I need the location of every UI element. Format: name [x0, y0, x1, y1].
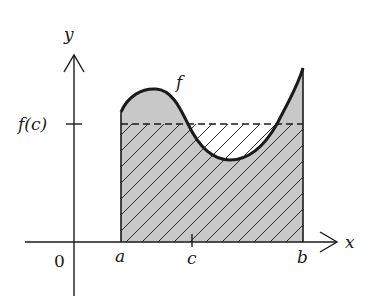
rectangle-f-c — [121, 124, 303, 242]
function-label: f — [174, 72, 185, 92]
origin-label: 0 — [54, 251, 65, 271]
diagram-canvas: y x 0 a c b f(c) f — [0, 0, 374, 305]
f-c-label: f(c) — [16, 114, 47, 134]
c-label: c — [187, 248, 197, 268]
b-label: b — [297, 247, 308, 267]
y-axis-label: y — [63, 24, 74, 44]
x-axis-label: x — [345, 232, 355, 252]
a-label: a — [115, 246, 125, 266]
mean-value-theorem-diagram: y x 0 a c b f(c) f — [0, 0, 374, 305]
